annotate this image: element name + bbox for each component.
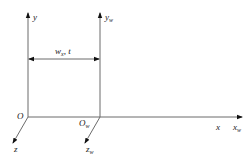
coordinate-frames-diagram: y yw wx, t O Ow z zw x xw: [0, 0, 251, 159]
offset-label: wx, t: [55, 46, 71, 57]
origin-label: O: [17, 111, 24, 121]
origin-w-label: Ow: [79, 118, 90, 129]
zw-axis-label: zw: [85, 144, 94, 155]
zw-axis: [85, 117, 100, 143]
yw-axis-label: yw: [104, 12, 113, 23]
y-axis-label: y: [32, 12, 37, 22]
z-axis-label: z: [13, 144, 18, 154]
xw-axis-label: xw: [232, 122, 241, 133]
x-axis-label: x: [215, 122, 220, 132]
